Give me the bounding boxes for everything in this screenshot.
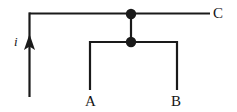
terminal-label-b: B (171, 94, 181, 109)
circuit-diagram-canvas (0, 0, 237, 112)
terminal-label-c: C (213, 6, 223, 21)
junction-dot-middle (126, 37, 136, 47)
current-label-i: i (14, 35, 18, 48)
terminal-label-a: A (85, 94, 96, 109)
junction-dot-top (126, 9, 136, 19)
circuit-diagram-figure: i A B C (0, 0, 237, 112)
